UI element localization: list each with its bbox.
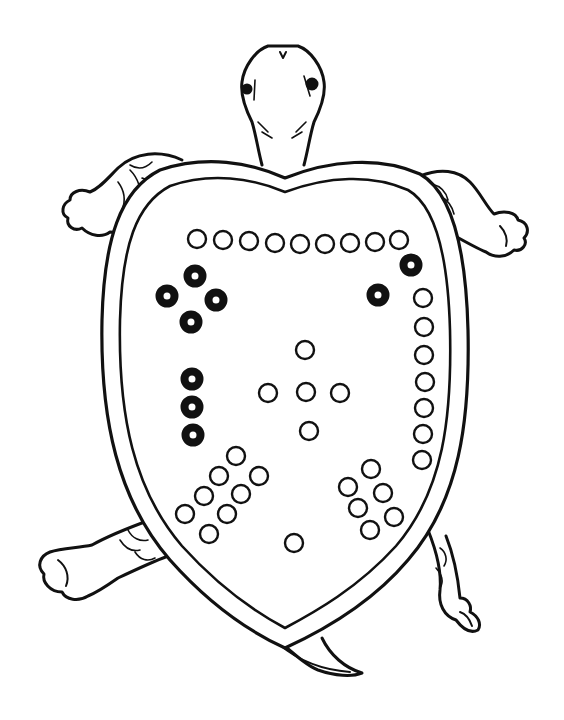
open-dot [250, 467, 268, 485]
open-dot [349, 499, 367, 517]
open-dot [374, 484, 392, 502]
open-dot [415, 399, 433, 417]
shell-outer [102, 162, 468, 648]
filled-dot [209, 293, 224, 308]
open-dot [339, 478, 357, 496]
open-dot [316, 235, 334, 253]
open-dot [195, 487, 213, 505]
filled-dot [184, 315, 199, 330]
open-dot [291, 235, 309, 253]
open-dot [390, 231, 408, 249]
open-dot [331, 384, 349, 402]
open-dot [240, 232, 258, 250]
open-dot [214, 231, 232, 249]
open-dot [285, 534, 303, 552]
open-dot [297, 383, 315, 401]
filled-dot [186, 428, 201, 443]
filled-dot [160, 289, 175, 304]
filled-dot [404, 258, 419, 273]
open-dot [210, 467, 228, 485]
open-dot [227, 447, 245, 465]
filled-dot [185, 400, 200, 415]
open-dot [385, 508, 403, 526]
dot-group-left [185, 372, 201, 443]
turtle-illustration [0, 0, 564, 720]
turtle-drawing [0, 0, 564, 720]
open-dot [366, 233, 384, 251]
open-dot [259, 384, 277, 402]
open-dot [200, 525, 218, 543]
open-dot [218, 505, 236, 523]
open-dot [188, 230, 206, 248]
open-dot [414, 425, 432, 443]
open-dot [232, 485, 250, 503]
right-eye [307, 79, 317, 89]
filled-dot [188, 269, 203, 284]
dot-group-bottom [285, 534, 303, 552]
open-dot [341, 234, 359, 252]
open-dot [362, 460, 380, 478]
filled-dot [371, 288, 386, 303]
open-dot [300, 422, 318, 440]
open-dot [416, 373, 434, 391]
open-dot [415, 346, 433, 364]
open-dot [296, 341, 314, 359]
head [242, 46, 325, 165]
open-dot [266, 234, 284, 252]
left-eye [243, 85, 251, 93]
open-dot [415, 318, 433, 336]
open-dot [413, 451, 431, 469]
open-dot [361, 521, 379, 539]
back-right-leg [428, 530, 480, 631]
open-dot [176, 505, 194, 523]
filled-dot [185, 372, 200, 387]
open-dot [414, 289, 432, 307]
